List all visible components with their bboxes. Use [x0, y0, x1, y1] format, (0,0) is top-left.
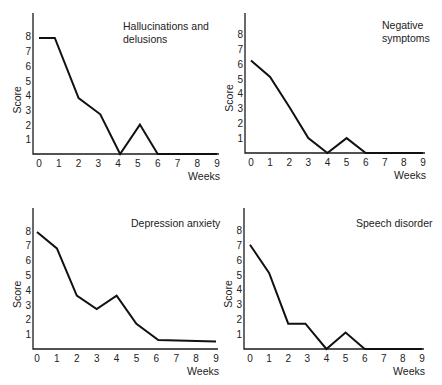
- x-tick-label: 5: [344, 157, 350, 168]
- y-tick-label: 7: [25, 240, 31, 251]
- y-tick-label: 4: [25, 90, 31, 101]
- y-axis-title: Score: [223, 84, 235, 112]
- x-tick-label: 6: [155, 158, 161, 169]
- x-tick-label: 3: [96, 158, 102, 169]
- y-tick-label: 8: [236, 225, 242, 236]
- x-tick-label: 4: [325, 157, 331, 168]
- chart-title: Hallucinations and: [123, 20, 209, 32]
- x-tick-label: 7: [381, 353, 387, 364]
- x-tick-label: 6: [154, 353, 160, 364]
- x-tick-label: 2: [286, 157, 292, 168]
- chart-panel-1: 123456780123456789WeeksScoreHallucinatio…: [11, 13, 220, 182]
- chart-panel-2: 123456780123456789WeeksScoreNegativesymp…: [223, 13, 430, 181]
- score-line: [39, 38, 217, 154]
- x-tick-label: 9: [419, 353, 425, 364]
- y-tick-label: 3: [237, 103, 243, 114]
- y-tick-label: 6: [25, 61, 31, 72]
- x-tick-label: 5: [343, 353, 349, 364]
- chart-title: Negative: [382, 19, 424, 31]
- x-tick-label: 8: [194, 158, 200, 169]
- score-line: [37, 232, 216, 342]
- y-tick-label: 8: [25, 31, 31, 42]
- x-tick-label: 4: [114, 353, 120, 364]
- x-axis-title: Weeks: [393, 365, 425, 377]
- x-tick-label: 5: [135, 158, 141, 169]
- y-axis-title: Score: [222, 280, 234, 308]
- y-axis-title: Score: [11, 281, 23, 309]
- x-tick-label: 4: [115, 158, 121, 169]
- y-tick-label: 1: [236, 329, 242, 340]
- x-tick-label: 7: [173, 353, 179, 364]
- charts-canvas: 123456780123456789WeeksScoreHallucinatio…: [0, 0, 442, 385]
- x-tick-label: 4: [324, 353, 330, 364]
- x-tick-label: 8: [400, 353, 406, 364]
- x-axis-title: Weeks: [187, 365, 219, 377]
- y-tick-label: 2: [236, 314, 242, 325]
- x-tick-label: 9: [420, 157, 426, 168]
- y-axis-title: Score: [11, 86, 23, 114]
- x-tick-label: 2: [76, 158, 82, 169]
- y-tick-label: 5: [237, 74, 243, 85]
- x-tick-label: 6: [363, 157, 369, 168]
- y-tick-label: 1: [25, 134, 31, 145]
- y-tick-label: 6: [237, 59, 243, 70]
- chart-title: Depression anxiety: [131, 217, 221, 229]
- x-tick-label: 9: [214, 158, 220, 169]
- x-tick-label: 1: [267, 157, 273, 168]
- x-tick-label: 0: [36, 158, 42, 169]
- y-tick-label: 2: [237, 118, 243, 129]
- x-tick-label: 5: [134, 353, 140, 364]
- y-tick-label: 7: [237, 44, 243, 55]
- x-tick-label: 2: [74, 353, 80, 364]
- y-tick-label: 3: [236, 299, 242, 310]
- y-tick-label: 8: [237, 29, 243, 40]
- x-axis-title: Weeks: [394, 169, 426, 181]
- y-tick-label: 4: [236, 284, 242, 295]
- y-tick-label: 4: [25, 285, 31, 296]
- x-tick-label: 2: [285, 353, 291, 364]
- x-tick-label: 0: [34, 353, 40, 364]
- x-tick-label: 3: [94, 353, 100, 364]
- x-tick-label: 8: [193, 353, 199, 364]
- x-tick-label: 7: [175, 158, 181, 169]
- chart-title: delusions: [123, 33, 167, 45]
- y-tick-label: 2: [25, 314, 31, 325]
- x-tick-label: 1: [54, 353, 60, 364]
- x-tick-label: 0: [248, 157, 254, 168]
- y-tick-label: 8: [25, 226, 31, 237]
- chart-title: symptoms: [382, 32, 430, 44]
- x-tick-label: 1: [266, 353, 272, 364]
- x-axis-title: Weeks: [188, 170, 220, 182]
- y-tick-label: 6: [25, 255, 31, 266]
- chart-title: Speech disorder: [356, 217, 433, 229]
- chart-panel-4: 123456780123456789WeeksScoreSpeech disor…: [222, 208, 433, 377]
- y-tick-label: 5: [25, 76, 31, 87]
- x-tick-label: 0: [247, 353, 253, 364]
- chart-panel-3: 123456780123456789WeeksScoreDepression a…: [11, 208, 221, 377]
- x-tick-label: 9: [213, 353, 219, 364]
- y-tick-label: 3: [25, 300, 31, 311]
- x-tick-label: 1: [56, 158, 62, 169]
- y-tick-label: 2: [25, 120, 31, 131]
- y-tick-label: 1: [25, 329, 31, 340]
- y-tick-label: 5: [236, 270, 242, 281]
- x-tick-label: 8: [401, 157, 407, 168]
- y-tick-label: 7: [236, 240, 242, 251]
- y-tick-label: 5: [25, 270, 31, 281]
- x-tick-label: 3: [306, 157, 312, 168]
- score-line: [250, 245, 422, 349]
- y-tick-label: 1: [237, 133, 243, 144]
- score-line: [251, 61, 423, 153]
- y-tick-label: 3: [25, 105, 31, 116]
- y-tick-label: 7: [25, 46, 31, 57]
- axes: [33, 208, 218, 349]
- y-tick-label: 6: [236, 255, 242, 266]
- x-tick-label: 3: [305, 353, 311, 364]
- x-tick-label: 6: [362, 353, 368, 364]
- y-tick-label: 4: [237, 88, 243, 99]
- x-tick-label: 7: [382, 157, 388, 168]
